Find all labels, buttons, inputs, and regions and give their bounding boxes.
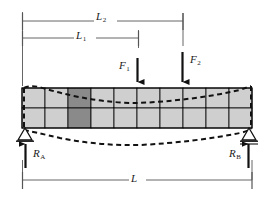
beam-deflection-figure: L2 L1 F1 F2 RA RB L xyxy=(0,0,275,197)
mesh-cell xyxy=(22,88,45,108)
dimension-L xyxy=(23,160,253,189)
figure-canvas xyxy=(0,0,275,197)
label-L: L xyxy=(131,173,137,184)
mesh-cell xyxy=(160,88,183,108)
mesh-cell xyxy=(91,108,114,128)
deflected-bottom-curve xyxy=(24,129,251,145)
label-RA: RA xyxy=(33,148,45,159)
mesh-cell-highlight xyxy=(68,108,91,128)
mesh-cell xyxy=(137,88,160,108)
label-L1: L1 xyxy=(76,30,86,41)
mesh-cell xyxy=(206,108,229,128)
support-b-triangle xyxy=(242,128,256,140)
load-arrows xyxy=(138,52,183,82)
mesh-cell xyxy=(22,108,45,128)
mesh-cell xyxy=(137,108,160,128)
label-L2: L2 xyxy=(96,11,106,22)
label-F1: F1 xyxy=(119,60,129,71)
mesh-cell xyxy=(206,88,229,108)
label-RB: RB xyxy=(229,148,240,159)
mesh-cell xyxy=(114,88,137,108)
mesh-cell xyxy=(45,88,68,108)
mesh-cell xyxy=(91,88,114,108)
reaction-arrows xyxy=(26,144,249,168)
mesh-cell xyxy=(45,108,68,128)
support-a-triangle xyxy=(18,128,32,140)
label-F2: F2 xyxy=(190,54,200,65)
mesh-cell xyxy=(229,108,252,128)
mesh-cell-highlight xyxy=(68,88,91,108)
support-b-roller xyxy=(240,128,258,144)
mesh-cell xyxy=(160,108,183,128)
mesh-cell xyxy=(114,108,137,128)
mesh-cell xyxy=(229,88,252,108)
support-a-pin xyxy=(16,128,34,141)
mesh-cell xyxy=(183,108,206,128)
